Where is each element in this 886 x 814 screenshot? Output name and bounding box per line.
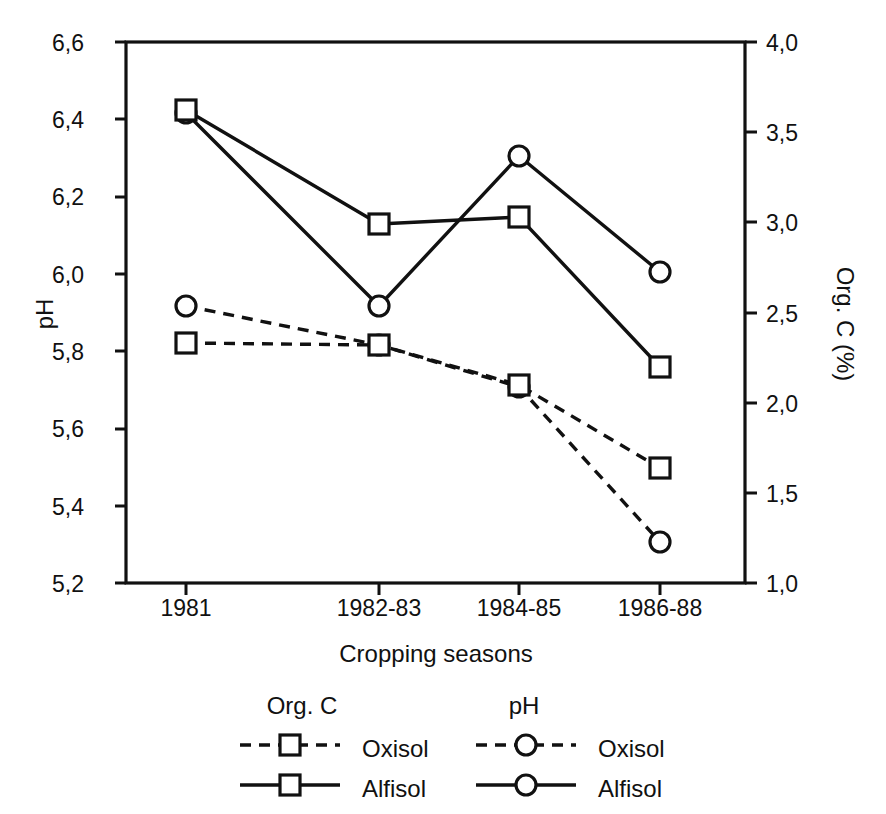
series-orgc-alfisol: [176, 100, 670, 377]
data-point-marker-circle: [650, 532, 670, 552]
data-point-marker-circle: [176, 296, 196, 316]
data-point-marker-square: [176, 333, 196, 353]
data-point-marker-circle: [650, 262, 670, 282]
series-ph-alfisol: [176, 103, 670, 316]
legend-swatch-ph-oxisol[interactable]: [476, 735, 576, 755]
data-point-marker-square: [176, 100, 196, 120]
legend-marker-square: [280, 775, 300, 795]
legend-marker-circle: [516, 775, 536, 795]
data-point-marker-circle: [369, 296, 389, 316]
data-point-marker-square: [369, 214, 389, 234]
plot-canvas: [0, 0, 886, 814]
left-axis-ticks: [115, 42, 126, 583]
series-orgc-alfisol-line: [186, 110, 660, 367]
series-ph-oxisol-line: [186, 306, 660, 542]
plot-frame: [126, 42, 745, 583]
series-orgc-oxisol: [176, 333, 670, 478]
series-ph-alfisol-line: [186, 113, 660, 306]
series-orgc-oxisol-line: [186, 343, 660, 468]
data-point-marker-circle: [509, 146, 529, 166]
data-point-marker-square: [369, 335, 389, 355]
legend-swatch-ph-alfisol[interactable]: [476, 775, 576, 795]
legend-marker-square: [280, 735, 300, 755]
data-point-marker-square: [509, 207, 529, 227]
data-point-marker-square: [509, 375, 529, 395]
data-point-marker-square: [650, 357, 670, 377]
legend-swatch-orgc-oxisol[interactable]: [240, 735, 340, 755]
legend-marker-circle: [516, 735, 536, 755]
data-point-marker-square: [650, 458, 670, 478]
chart-figure: 6,6 6,4 6,2 6,0 5,8 5,6 5,4 5,2 4,0 3,5 …: [0, 0, 886, 814]
series-ph-oxisol: [176, 296, 670, 552]
legend-swatch-orgc-alfisol[interactable]: [240, 775, 340, 795]
right-axis-ticks: [745, 42, 757, 583]
x-axis-ticks: [186, 583, 660, 595]
